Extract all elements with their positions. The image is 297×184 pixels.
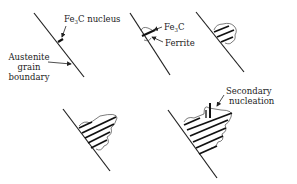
- cementite-lamella: [88, 132, 110, 143]
- cementite-lamella: [193, 128, 226, 142]
- cementite-lamella: [199, 146, 217, 154]
- boundary-arrow: [48, 62, 71, 64]
- cementite-lamella: [79, 122, 92, 128]
- secondary-arrow: [217, 95, 224, 106]
- nucleus-arrow: [62, 26, 66, 37]
- ferrite-outline: [141, 27, 152, 31]
- grain-boundary-line: [168, 110, 217, 178]
- grain-boundary-line: [196, 12, 244, 72]
- ferrite-label: Ferrite: [165, 38, 195, 48]
- fe3c-arrow: [154, 27, 162, 30]
- cementite-lamella: [217, 30, 234, 37]
- fe3c-plate: [142, 30, 155, 36]
- panel-3: [196, 12, 244, 72]
- secondary-nucleation-label: Secondary nucleation: [226, 86, 274, 106]
- ferrite-arrow: [152, 37, 163, 42]
- grain-boundary-line: [63, 109, 110, 171]
- cementite-lamella: [214, 26, 229, 32]
- austenite-label: Austenite grain boundary: [7, 52, 51, 82]
- cementite-lamella: [221, 37, 233, 42]
- panel-4: [63, 109, 117, 171]
- cementite-lamella: [85, 124, 114, 138]
- fe3c-nucleus-label: Fe3C nucleus: [64, 14, 120, 27]
- fe3c-label: Fe3C: [164, 22, 184, 35]
- panel-5: [168, 95, 232, 178]
- fe3c-nucleus: [58, 39, 63, 42]
